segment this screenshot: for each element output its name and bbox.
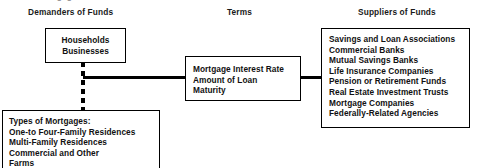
box-types-of-mortgages: Types of Mortgages: One-to Four-Family R…: [2, 110, 160, 168]
box-line: One-to Four-Family Residences: [9, 127, 159, 138]
box-mortgage-terms: Mortgage Interest Rate Amount of Loan Ma…: [185, 56, 301, 101]
box-line: Pension or Retirement Funds: [329, 76, 469, 87]
clipped-diagram-title: The Mortgage Market: [20, 0, 107, 1]
box-line: Businesses: [46, 46, 125, 57]
box-line: Amount of Loan: [193, 75, 300, 86]
box-suppliers-of-funds: Savings and Loan Associations Commercial…: [321, 28, 470, 128]
box-terms-text: Mortgage Interest Rate Amount of Loan Ma…: [186, 57, 300, 96]
box-line: Farms: [9, 158, 159, 168]
box-suppliers-text: Savings and Loan Associations Commercial…: [322, 29, 469, 119]
box-line: Commercial and Other: [9, 148, 159, 159]
demanders-to-terms-connector-icon: [83, 76, 186, 79]
box-line: Mortgage Interest Rate: [193, 64, 300, 75]
box-households-text: Households Businesses: [46, 29, 125, 56]
box-types-text: Types of Mortgages: One-to Four-Family R…: [3, 111, 159, 168]
diagram-canvas: The Mortgage Market Demanders of Funds T…: [0, 0, 484, 168]
column-heading-suppliers: Suppliers of Funds: [358, 7, 436, 17]
column-heading-terms: Terms: [227, 7, 252, 17]
dashed-vertical-connector-icon: [81, 62, 85, 112]
box-line: Savings and Loan Associations: [329, 34, 469, 45]
box-line: Types of Mortgages:: [9, 116, 159, 127]
box-households-businesses: Households Businesses: [45, 28, 126, 63]
box-line: Mutual Savings Banks: [329, 55, 469, 66]
box-line: Real Estate Investment Trusts: [329, 87, 469, 98]
column-heading-demanders: Demanders of Funds: [28, 7, 113, 17]
box-line: Commercial Banks: [329, 45, 469, 56]
box-line: Multi-Family Residences: [9, 137, 159, 148]
box-line: Federally-Related Agencies: [329, 108, 469, 119]
box-line: Mortgage Companies: [329, 98, 469, 109]
box-line: Life Insurance Companies: [329, 66, 469, 77]
box-line: Households: [46, 35, 125, 46]
terms-to-suppliers-connector-icon: [300, 76, 322, 79]
box-line: Maturity: [193, 85, 300, 96]
